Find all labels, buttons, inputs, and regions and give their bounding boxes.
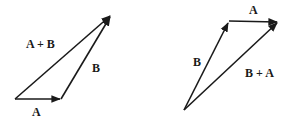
vector-sum-arrow [15, 16, 110, 99]
label-b-plus-a: B + A [245, 66, 274, 80]
label-a-plus-b: A + B [26, 37, 55, 51]
vector-addition-diagram: A + B B A A B B + A [0, 0, 288, 122]
left-triangle: A + B B A [15, 16, 110, 119]
label-b: B [92, 61, 100, 75]
right-triangle: A B B + A [184, 3, 277, 110]
vector-b-arrow [184, 23, 228, 110]
vector-a-arrow [229, 21, 277, 22]
vector-b-arrow [61, 17, 110, 99]
label-b: B [193, 55, 201, 69]
label-a: A [249, 3, 258, 17]
label-a: A [32, 105, 41, 119]
